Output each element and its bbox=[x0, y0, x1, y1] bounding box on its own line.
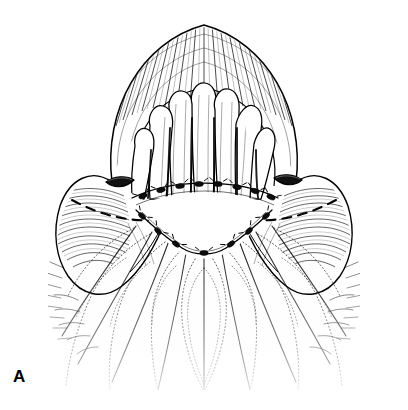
panel-label: A bbox=[13, 368, 25, 385]
anatomical-illustration bbox=[0, 0, 408, 410]
figure-panel-a: A bbox=[0, 0, 408, 410]
